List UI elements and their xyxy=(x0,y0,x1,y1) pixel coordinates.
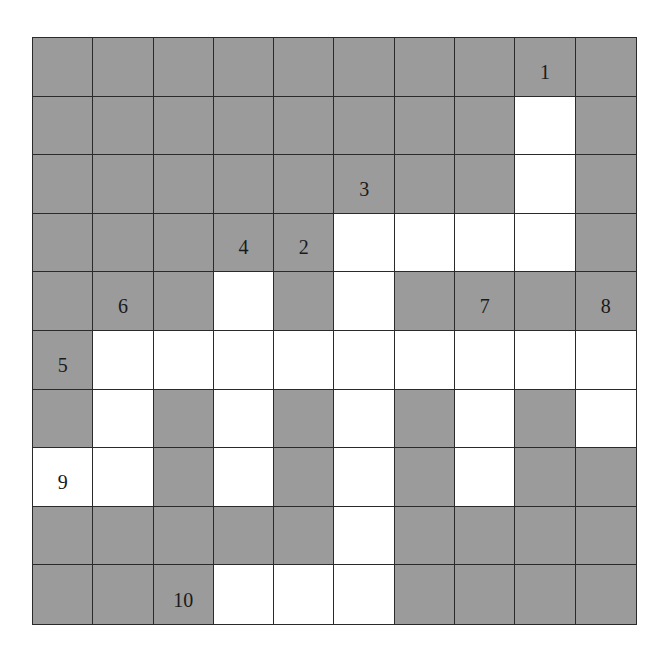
open-cell[interactable] xyxy=(214,565,274,624)
blocked-cell xyxy=(515,272,575,331)
blocked-cell xyxy=(33,214,93,273)
blocked-cell xyxy=(395,390,455,449)
open-cell[interactable] xyxy=(334,331,394,390)
open-cell[interactable] xyxy=(455,390,515,449)
blocked-cell xyxy=(395,38,455,97)
clue-number: 3 xyxy=(334,179,393,199)
open-cell[interactable] xyxy=(274,331,334,390)
blocked-cell xyxy=(93,97,153,156)
open-cell[interactable] xyxy=(515,214,575,273)
blocked-cell xyxy=(576,97,636,156)
open-cell[interactable] xyxy=(93,390,153,449)
open-cell[interactable] xyxy=(274,565,334,624)
blocked-cell xyxy=(154,155,214,214)
blocked-cell xyxy=(395,507,455,566)
open-cell[interactable] xyxy=(334,448,394,507)
blocked-cell xyxy=(576,214,636,273)
open-cell[interactable] xyxy=(455,331,515,390)
open-cell[interactable] xyxy=(515,331,575,390)
blocked-cell xyxy=(33,565,93,624)
blocked-cell xyxy=(154,448,214,507)
blocked-cell xyxy=(33,155,93,214)
blocked-cell xyxy=(93,38,153,97)
clue-number: 8 xyxy=(576,296,636,316)
blocked-cell xyxy=(33,272,93,331)
blocked-cell xyxy=(33,390,93,449)
clue-number: 4 xyxy=(214,237,273,257)
open-cell[interactable] xyxy=(214,448,274,507)
open-cell[interactable] xyxy=(214,272,274,331)
blocked-cell xyxy=(455,38,515,97)
blocked-cell: 1 xyxy=(515,38,575,97)
blocked-cell xyxy=(93,507,153,566)
blocked-cell xyxy=(455,155,515,214)
blocked-cell xyxy=(154,214,214,273)
open-cell[interactable] xyxy=(93,331,153,390)
open-cell[interactable] xyxy=(334,390,394,449)
blocked-cell xyxy=(274,507,334,566)
blocked-cell xyxy=(214,97,274,156)
blocked-cell xyxy=(274,390,334,449)
clue-number: 9 xyxy=(33,472,92,492)
blocked-cell xyxy=(274,155,334,214)
open-cell[interactable]: 9 xyxy=(33,448,93,507)
blocked-cell xyxy=(154,38,214,97)
open-cell[interactable] xyxy=(576,331,636,390)
open-cell[interactable] xyxy=(154,331,214,390)
clue-number: 1 xyxy=(515,62,574,82)
blocked-cell xyxy=(576,507,636,566)
open-cell[interactable] xyxy=(395,214,455,273)
blocked-cell xyxy=(274,97,334,156)
open-cell[interactable] xyxy=(515,97,575,156)
blocked-cell: 7 xyxy=(455,272,515,331)
blocked-cell xyxy=(154,272,214,331)
blocked-cell: 2 xyxy=(274,214,334,273)
blocked-cell xyxy=(93,565,153,624)
blocked-cell xyxy=(33,38,93,97)
blocked-cell xyxy=(274,448,334,507)
blocked-cell xyxy=(395,565,455,624)
blocked-cell: 3 xyxy=(334,155,394,214)
open-cell[interactable] xyxy=(455,214,515,273)
blocked-cell: 6 xyxy=(93,272,153,331)
blocked-cell xyxy=(395,155,455,214)
open-cell[interactable] xyxy=(334,507,394,566)
blocked-cell xyxy=(395,272,455,331)
blocked-cell xyxy=(515,390,575,449)
blocked-cell xyxy=(154,390,214,449)
blocked-cell xyxy=(576,448,636,507)
open-cell[interactable] xyxy=(334,565,394,624)
open-cell[interactable] xyxy=(214,331,274,390)
blocked-cell xyxy=(576,565,636,624)
blocked-cell xyxy=(154,507,214,566)
blocked-cell xyxy=(274,38,334,97)
open-cell[interactable] xyxy=(395,331,455,390)
open-cell[interactable] xyxy=(93,448,153,507)
page: 13426785910 xyxy=(0,0,669,656)
blocked-cell xyxy=(455,565,515,624)
open-cell[interactable] xyxy=(334,272,394,331)
open-cell[interactable] xyxy=(576,390,636,449)
open-cell[interactable] xyxy=(515,155,575,214)
blocked-cell xyxy=(576,155,636,214)
blocked-cell xyxy=(274,272,334,331)
crossword-grid: 13426785910 xyxy=(32,37,637,625)
blocked-cell xyxy=(154,97,214,156)
open-cell[interactable] xyxy=(455,448,515,507)
blocked-cell xyxy=(33,97,93,156)
blocked-cell xyxy=(395,448,455,507)
blocked-cell xyxy=(395,97,455,156)
open-cell[interactable] xyxy=(334,214,394,273)
blocked-cell xyxy=(214,507,274,566)
blocked-cell xyxy=(515,507,575,566)
blocked-cell xyxy=(455,97,515,156)
blocked-cell xyxy=(93,214,153,273)
open-cell[interactable] xyxy=(214,390,274,449)
clue-number: 10 xyxy=(154,590,213,610)
blocked-cell xyxy=(455,507,515,566)
blocked-cell xyxy=(576,38,636,97)
blocked-cell: 10 xyxy=(154,565,214,624)
blocked-cell: 4 xyxy=(214,214,274,273)
clue-number: 5 xyxy=(33,355,92,375)
blocked-cell xyxy=(334,97,394,156)
